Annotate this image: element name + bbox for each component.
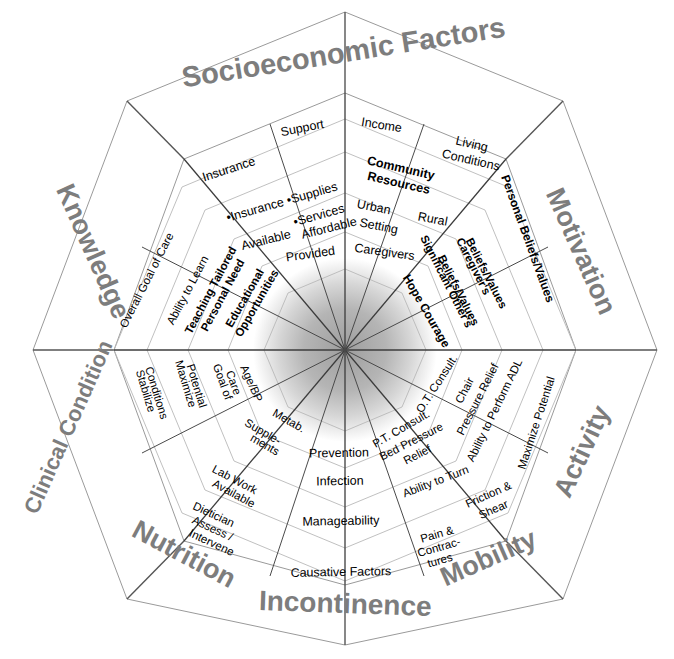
diagram-canvas: Socioeconomic Factors Motivation Activit… xyxy=(0,0,674,659)
cell-incontinence-manageability: Manageability xyxy=(302,513,380,528)
cell-incontinence-infection: Infection xyxy=(316,474,364,489)
cell-incontinence-prevention: Prevention xyxy=(309,445,369,460)
cell-incontinence-causative: Causative Factors xyxy=(290,564,391,580)
sector-title-incontinence: Incontinence xyxy=(258,585,432,622)
octagon-wheel-diagram: Socioeconomic Factors Motivation Activit… xyxy=(0,0,674,659)
